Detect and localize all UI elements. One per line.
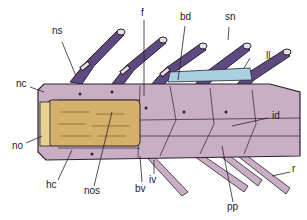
label-id: id (272, 111, 280, 121)
label-sn: sn (225, 12, 236, 22)
label-bd: bd (180, 12, 191, 22)
notochord-sheath-end (40, 102, 50, 146)
label-f: f (141, 8, 144, 18)
ligament (168, 68, 252, 82)
label-hc: hc (46, 180, 57, 190)
label-ll: ll (266, 51, 270, 61)
label-r: r (292, 164, 295, 174)
label-nos: nos (84, 186, 100, 196)
label-bv: bv (135, 184, 146, 194)
label-pp: pp (227, 202, 238, 212)
label-iv: iv (149, 175, 156, 185)
label-no: no (12, 141, 23, 151)
label-nc: nc (16, 79, 27, 89)
notochord (48, 100, 140, 146)
label-ns: ns (52, 26, 63, 36)
